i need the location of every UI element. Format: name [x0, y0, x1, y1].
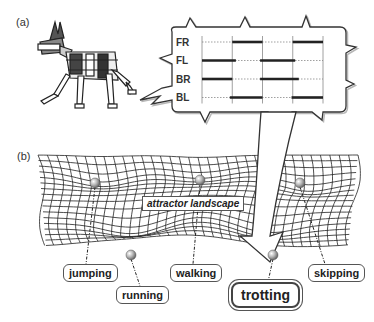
mesh-line-vertical	[112, 156, 119, 239]
arrow-to-trotting	[240, 112, 296, 262]
mesh-line-vertical	[345, 155, 360, 245]
state-label-running: running	[116, 286, 169, 304]
gait-bubble	[140, 16, 358, 172]
connector-running	[131, 259, 140, 286]
mesh-line-horizontal	[39, 166, 357, 174]
ball-running	[126, 250, 136, 260]
state-label-walking: walking	[170, 264, 222, 282]
mesh-line-horizontal	[38, 155, 358, 157]
ball-jumping	[90, 178, 100, 188]
mesh-line-horizontal	[41, 186, 354, 195]
gait-leg-label-br: BR	[176, 74, 191, 85]
attractor-landscape-label: attractor landscape	[142, 196, 244, 211]
mesh-line-horizontal	[46, 235, 348, 247]
gait-leg-label-fr: FR	[176, 37, 190, 48]
state-label-jumping: jumping	[63, 264, 118, 282]
mesh-line-vertical	[130, 156, 138, 239]
mesh-line-vertical	[103, 157, 110, 241]
ball-trotting	[268, 250, 278, 260]
robot-dog-illustration	[38, 22, 136, 108]
state-label-trotting: trotting	[231, 282, 300, 308]
ball-walking	[195, 175, 205, 185]
mesh-line-vertical	[283, 155, 296, 246]
ball-skipping	[295, 178, 305, 188]
gait-leg-label-bl: BL	[176, 92, 189, 103]
state-label-skipping: skipping	[308, 264, 365, 282]
gait-leg-label-fl: FL	[176, 55, 188, 66]
mesh-line-horizontal	[46, 231, 349, 243]
